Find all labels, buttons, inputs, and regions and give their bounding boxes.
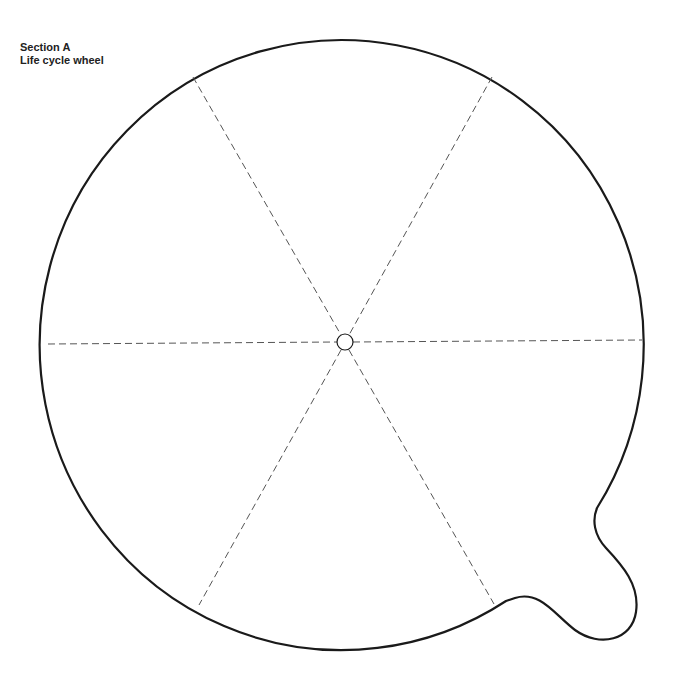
divider-upper-left (193, 77, 341, 335)
life-cycle-wheel (0, 0, 679, 684)
center-pivot (337, 334, 353, 350)
divider-lower-left (199, 350, 341, 605)
divider-horizontal-right (353, 340, 642, 342)
divider-horizontal-left (48, 342, 337, 344)
divider-upper-right (349, 77, 492, 335)
divider-lower-right (349, 350, 494, 604)
